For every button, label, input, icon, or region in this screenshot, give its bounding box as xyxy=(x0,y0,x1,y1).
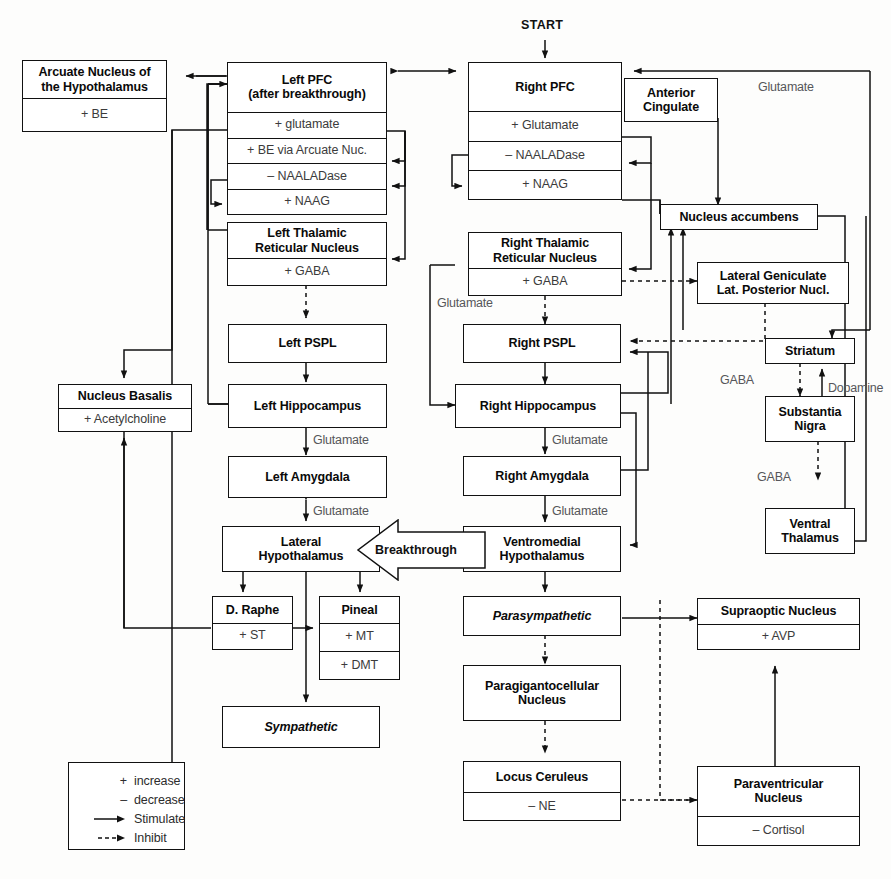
node-sub: + NAAG xyxy=(469,170,621,199)
node-title: Right Hippocampus xyxy=(456,385,620,427)
legend-label: increase xyxy=(134,774,180,788)
node-sub: – NE xyxy=(464,792,620,820)
node-title: Sympathetic xyxy=(223,707,379,747)
node-title: Left ThalamicReticular Nucleus xyxy=(228,223,386,258)
node-left-amygdala[interactable]: Left Amygdala xyxy=(228,456,387,498)
node-striatum[interactable]: Striatum xyxy=(765,338,855,364)
solid-arrow-icon xyxy=(91,812,134,826)
node-pineal[interactable]: Pineal + MT + DMT xyxy=(319,596,400,680)
node-sub: + DMT xyxy=(320,651,399,679)
node-title: SubstantiaNigra xyxy=(766,397,854,441)
node-sub: + BE via Arcuate Nuc. xyxy=(228,138,386,164)
node-sympathetic[interactable]: Sympathetic xyxy=(222,706,380,748)
node-left-pfc[interactable]: Left PFC(after breakthrough) + glutamate… xyxy=(227,62,387,215)
node-title: ParaventricularNucleus xyxy=(698,767,859,816)
node-title: D. Raphe xyxy=(213,597,292,623)
node-sub: – NAALADase xyxy=(228,163,386,189)
node-paragigantocellular-nucleus[interactable]: ParagigantocellularNucleus xyxy=(463,665,621,721)
node-left-thalamic-reticular-nucleus[interactable]: Left ThalamicReticular Nucleus + GABA xyxy=(227,222,387,286)
node-parasympathetic[interactable]: Parasympathetic xyxy=(463,596,621,636)
edge-label-dopamine: Dopamine xyxy=(828,381,883,395)
node-title: Right Amygdala xyxy=(464,457,620,495)
node-sub: + MT xyxy=(320,623,399,651)
node-sub: + AVP xyxy=(698,624,859,650)
node-paraventricular-nucleus[interactable]: ParaventricularNucleus – Cortisol xyxy=(697,766,860,846)
edge-label-gaba-nigra: GABA xyxy=(757,470,791,484)
node-locus-ceruleus[interactable]: Locus Ceruleus – NE xyxy=(463,761,621,821)
node-sub: + NAAG xyxy=(228,189,386,214)
legend-row-stimulate: Stimulate xyxy=(69,809,184,828)
node-right-pspl[interactable]: Right PSPL xyxy=(463,324,621,363)
legend-label: decrease xyxy=(134,793,185,807)
node-title: VentromedialHypothalamus xyxy=(464,527,620,571)
node-title: Nucleus accumbens xyxy=(661,205,817,229)
dashed-arrow-icon xyxy=(91,831,134,845)
node-title: Striatum xyxy=(766,339,854,363)
node-title: Pineal xyxy=(320,597,399,623)
node-arcuate-nucleus[interactable]: Arcuate Nucleus ofthe Hypothalamus + BE xyxy=(22,60,167,132)
node-title: Parasympathetic xyxy=(464,597,620,635)
node-title: Right PSPL xyxy=(464,325,620,362)
node-title: AnteriorCingulate xyxy=(625,79,717,121)
minus-icon: – xyxy=(91,793,134,807)
node-supraoptic-nucleus[interactable]: Supraoptic Nucleus + AVP xyxy=(697,598,860,650)
node-anterior-cingulate[interactable]: AnteriorCingulate xyxy=(624,78,718,122)
legend-label: Stimulate xyxy=(134,812,185,826)
legend-row-increase: + increase xyxy=(69,771,184,790)
legend-box: + increase – decrease Stimulate xyxy=(68,762,185,850)
node-left-pspl[interactable]: Left PSPL xyxy=(228,324,387,363)
node-sub: + GABA xyxy=(228,258,386,285)
edge-label-glutamate-right-amygdala: Glutamate xyxy=(552,504,608,518)
edge-label-gaba-striatum: GABA xyxy=(720,373,754,387)
plus-icon: + xyxy=(91,774,134,788)
node-nucleus-basalis[interactable]: Nucleus Basalis + Acetylcholine xyxy=(58,384,192,432)
node-lateral-geniculate[interactable]: Lateral GeniculateLat. Posterior Nucl. xyxy=(697,262,849,304)
node-right-pfc[interactable]: Right PFC + Glutamate – NAALADase + NAAG xyxy=(468,62,622,200)
node-right-hippocampus[interactable]: Right Hippocampus xyxy=(455,384,621,428)
node-sub: + ST xyxy=(213,623,292,650)
node-title: Supraoptic Nucleus xyxy=(698,599,859,624)
node-sub: + glutamate xyxy=(228,112,386,138)
node-ventral-thalamus[interactable]: VentralThalamus xyxy=(765,508,855,554)
node-left-hippocampus[interactable]: Left Hippocampus xyxy=(228,384,387,428)
node-d-raphe[interactable]: D. Raphe + ST xyxy=(212,596,293,650)
node-right-thalamic-reticular-nucleus[interactable]: Right ThalamicReticular Nucleus + GABA xyxy=(468,232,622,296)
node-title: VentralThalamus xyxy=(766,509,854,553)
edge-label-glutamate-left-hippocampus: Glutamate xyxy=(313,433,369,447)
node-title: Lateral GeniculateLat. Posterior Nucl. xyxy=(698,263,848,303)
edge-label-glutamate-right-hippocampus: Glutamate xyxy=(552,433,608,447)
edge-label-glutamate-left-amygdala: Glutamate xyxy=(313,504,369,518)
node-sub: – NAALADase xyxy=(469,141,621,170)
breakthrough-label: Breakthrough xyxy=(375,543,457,557)
node-substantia-nigra[interactable]: SubstantiaNigra xyxy=(765,396,855,442)
node-sub: + GABA xyxy=(469,268,621,295)
node-sub: + Glutamate xyxy=(469,111,621,141)
neuro-flowchart-diagram: Arcuate Nucleus ofthe Hypothalamus + BE … xyxy=(0,0,891,879)
legend-row-inhibit: Inhibit xyxy=(69,828,184,847)
node-title: Left Amygdala xyxy=(229,457,386,497)
node-sub: – Cortisol xyxy=(698,816,859,845)
node-ventromedial-hypothalamus[interactable]: VentromedialHypothalamus xyxy=(463,526,621,572)
legend-row-decrease: – decrease xyxy=(69,790,184,809)
node-title: Nucleus Basalis xyxy=(59,385,191,408)
node-title: Left Hippocampus xyxy=(229,385,386,427)
node-title: Locus Ceruleus xyxy=(464,762,620,792)
edge-label-glutamate-top-right: Glutamate xyxy=(758,80,814,94)
node-title: Left PSPL xyxy=(229,325,386,362)
node-title: ParagigantocellularNucleus xyxy=(464,666,620,720)
node-title: Right ThalamicReticular Nucleus xyxy=(469,233,621,268)
legend-label: Inhibit xyxy=(134,831,167,845)
node-nucleus-accumbens[interactable]: Nucleus accumbens xyxy=(660,204,818,230)
node-title: Arcuate Nucleus ofthe Hypothalamus xyxy=(23,61,166,98)
start-label: START xyxy=(521,18,563,32)
node-right-amygdala[interactable]: Right Amygdala xyxy=(463,456,621,496)
node-title: Left PFC(after breakthrough) xyxy=(228,63,386,112)
node-sub: + BE xyxy=(23,98,166,131)
node-title: Right PFC xyxy=(469,63,621,111)
edge-label-glutamate-mid-left: Glutamate xyxy=(437,296,493,310)
node-sub: + Acetylcholine xyxy=(59,408,191,432)
